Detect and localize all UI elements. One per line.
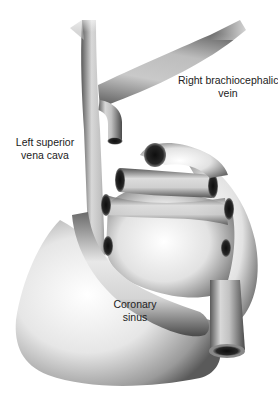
label-line: sinus (110, 311, 160, 324)
pulmonary-vein-opening (101, 194, 111, 216)
pulmonary-vein-opening (115, 168, 125, 192)
label-line: vena cava (12, 149, 78, 162)
pulmonary-vein-opening (103, 236, 113, 256)
vessel-opening (144, 143, 166, 167)
heart-diagram: Right brachiocephalic vein Left superior… (0, 0, 278, 399)
pulmonary-vein-opening (224, 198, 234, 220)
vessel-opening (108, 138, 123, 145)
inferior-vena-cava (209, 280, 245, 358)
label-line: Coronary (110, 298, 160, 311)
label-line: Left superior (12, 136, 78, 149)
pulmonary-vein-opening (208, 174, 218, 198)
label-left-superior-vena-cava: Left superior vena cava (12, 136, 78, 161)
label-line: vein (178, 87, 278, 100)
label-coronary-sinus: Coronary sinus (110, 298, 160, 323)
label-right-brachiocephalic-vein: Right brachiocephalic vein (178, 74, 278, 99)
pulmonary-vein-opening (221, 239, 231, 257)
label-line: Right brachiocephalic (178, 74, 278, 87)
heart-illustration (0, 0, 278, 399)
